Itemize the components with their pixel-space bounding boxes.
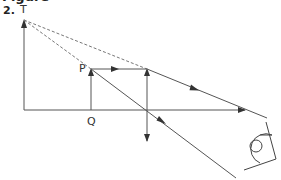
ray-arrowhead-icon — [111, 66, 119, 72]
ray-arrowhead-icon — [157, 116, 167, 124]
eye-icon — [244, 122, 276, 170]
principal-axis — [24, 107, 246, 113]
parallel-ray — [91, 66, 147, 72]
ray-diagram — [0, 0, 281, 180]
central-ray — [91, 69, 236, 178]
convex-lens — [144, 68, 150, 142]
dashed-construction-lines — [24, 20, 147, 69]
lens-bottom-arrowhead-icon — [144, 134, 150, 142]
refracted-ray — [147, 69, 267, 118]
virtual-image-arrow — [21, 19, 27, 110]
object-arrow — [88, 68, 94, 110]
ray-arrowhead-icon — [190, 85, 200, 91]
